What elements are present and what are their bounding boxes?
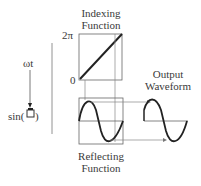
output-title-line1: Output: [143, 68, 193, 80]
indexing-ymin-label: 0: [70, 74, 76, 86]
indexing-title-line1: Indexing: [78, 7, 124, 19]
output-title-line2: Waveform: [143, 80, 193, 92]
arrow-bottom-head: [163, 138, 167, 142]
placeholder-square-icon: [27, 110, 34, 117]
reflecting-title: Reflecting Function: [76, 150, 126, 174]
placeholder-cap: [28, 108, 33, 110]
indexing-ramp: [80, 34, 122, 79]
output-title: Output Waveform: [143, 68, 193, 92]
sin-function-label: sin(: [8, 110, 25, 122]
output-sine: [144, 100, 187, 142]
reflecting-title-line2: Function: [76, 162, 126, 174]
indexing-title: Indexing Function: [78, 7, 124, 31]
indexing-title-line2: Function: [78, 19, 124, 31]
input-arrow-head: [28, 103, 32, 108]
reflecting-title-line1: Reflecting: [76, 150, 126, 162]
input-omega-t-label: ωt: [23, 57, 33, 69]
indexing-ymax-label: 2π: [62, 29, 73, 41]
sin-function-close: ): [35, 110, 39, 122]
